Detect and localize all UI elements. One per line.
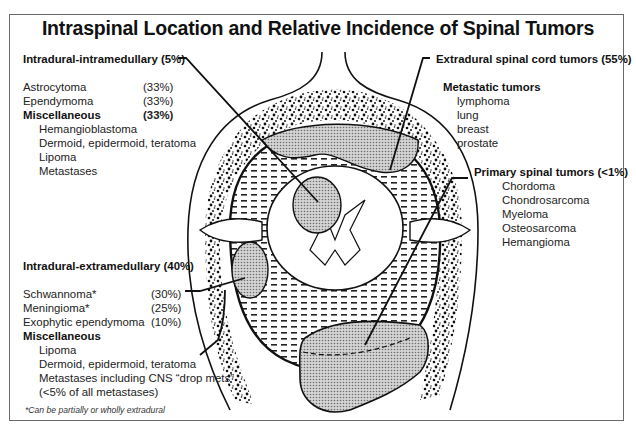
- extramedullary-item-pct: (25%): [151, 301, 181, 315]
- metastatic-item: lymphoma: [457, 94, 510, 108]
- footnote: *Can be partially or wholly extradural: [25, 405, 165, 415]
- metastatic-item: lung: [457, 108, 479, 122]
- intramedullary-item-label: Ependymoma: [23, 94, 93, 108]
- intramedullary-tumor: [293, 177, 341, 233]
- intramedullary-item-pct: (33%): [143, 94, 173, 108]
- metastatic-item: prostate: [457, 136, 498, 150]
- extramedullary-tumor: [232, 242, 268, 298]
- primary-spinal-tumors-label: Primary spinal tumors (<1%): [474, 165, 628, 179]
- intramedullary-misc-pct: (33%): [143, 108, 173, 122]
- primary-item: Chordoma: [502, 179, 555, 193]
- extramedullary-misc-item: Dermoid, epidermoid, teratoma: [39, 357, 196, 371]
- intramedullary-item-label: Astrocytoma: [23, 80, 86, 94]
- extradural-tumor-ventral: [300, 321, 429, 412]
- extramedullary-item-pct: (30%): [151, 287, 181, 301]
- metastatic-item: breast: [457, 122, 489, 136]
- intramedullary-item-pct: (33%): [143, 80, 173, 94]
- extramedullary-heading: Intradural-extramedullary (40%): [23, 259, 194, 273]
- extramedullary-misc-item: Metastases including CNS “drop mets”: [39, 371, 234, 385]
- extramedullary-item-label: Meningioma*: [23, 301, 89, 315]
- extramedullary-item-label: Exophytic ependymoma: [23, 315, 145, 329]
- intramedullary-misc-item: Lipoma: [39, 150, 76, 164]
- primary-item: Hemangioma: [502, 235, 570, 249]
- extramedullary-misc-label: Miscellaneous: [23, 329, 101, 343]
- extradural-heading: Extradural spinal cord tumors (55%): [436, 52, 632, 66]
- spinal-cord: [267, 166, 403, 290]
- intramedullary-misc-item: Metastases: [39, 164, 97, 178]
- extramedullary-item-label: Schwannoma*: [23, 287, 96, 301]
- extramedullary-item-pct: (10%): [151, 315, 181, 329]
- intramedullary-misc-label: Miscellaneous: [23, 108, 101, 122]
- primary-item: Osteosarcoma: [502, 221, 576, 235]
- primary-item: Myeloma: [502, 207, 548, 221]
- metastatic-tumors-label: Metastatic tumors: [443, 80, 540, 94]
- intramedullary-heading: Intradural-intramedullary (5%): [23, 52, 185, 66]
- extramedullary-misc-item: (<5% of all metastases): [39, 385, 158, 399]
- primary-item: Chondrosarcoma: [502, 193, 589, 207]
- intramedullary-misc-item: Dermoid, epidermoid, teratoma: [39, 136, 196, 150]
- extramedullary-misc-item: Lipoma: [39, 343, 76, 357]
- intramedullary-misc-item: Hemangioblastoma: [39, 122, 137, 136]
